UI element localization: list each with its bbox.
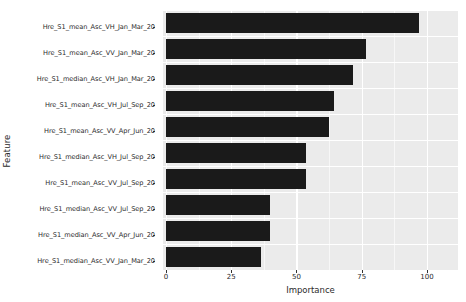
importance-bar-chart: Feature Hre_S1_mean_Asc_VH_Jan_Mar_20Hre… — [0, 0, 466, 302]
gridline-major-horizontal — [163, 244, 458, 245]
y-axis-tick-label: Hre_S1_mean_Asc_VH_Jan_Mar_20 — [43, 14, 155, 40]
y-axis-tick-mark — [153, 53, 156, 54]
gridline-major-horizontal — [163, 10, 458, 11]
y-axis-tick-label-text: Hre_S1_mean_Asc_VH_Jan_Mar_20 — [43, 23, 155, 31]
x-axis-tick-label: 75 — [357, 273, 366, 281]
gridline-major-horizontal — [163, 166, 458, 167]
gridline-major-horizontal — [163, 62, 458, 63]
y-axis-tick-mark — [153, 183, 156, 184]
y-axis-tick-label-text: Hre_S1_median_Asc_VV_Apr_Jun_20 — [38, 231, 155, 239]
x-axis-tick-label: 50 — [292, 273, 301, 281]
y-axis-tick-mark — [153, 79, 156, 80]
y-axis-tick-label: Hre_S1_mean_Asc_VV_Jul_Sep_20 — [45, 170, 155, 196]
y-axis-tick-label: Hre_S1_mean_Asc_VH_Jul_Sep_20 — [45, 92, 155, 118]
y-axis-tick-mark — [153, 131, 156, 132]
y-axis-tick-label: Hre_S1_mean_Asc_VV_Apr_Jun_20 — [44, 118, 155, 144]
y-axis-title: Feature — [0, 0, 14, 302]
gridline-major-horizontal — [163, 192, 458, 193]
y-axis-tick-label-text: Hre_S1_median_Asc_VV_Jul_Sep_20 — [39, 205, 155, 213]
y-axis-tick-label-text: Hre_S1_mean_Asc_VV_Apr_Jun_20 — [44, 127, 155, 135]
gridline-major-horizontal — [163, 36, 458, 37]
bar[interactable] — [166, 143, 306, 164]
y-axis-tick-label: Hre_S1_median_Asc_VV_Jul_Sep_20 — [39, 196, 155, 222]
y-axis-tick-label-text: Hre_S1_mean_Asc_VV_Jan_Mar_20 — [43, 49, 155, 57]
bar[interactable] — [166, 195, 270, 216]
y-axis-tick-label-text: Hre_S1_median_Asc_VV_Jan_Mar_20 — [37, 257, 155, 265]
bar[interactable] — [166, 117, 329, 138]
x-axis-tick-label: 100 — [420, 273, 433, 281]
y-axis-tick-label-text: Hre_S1_mean_Asc_VH_Jul_Sep_20 — [45, 101, 155, 109]
gridline-major-horizontal — [163, 218, 458, 219]
bar[interactable] — [166, 221, 270, 242]
y-axis-tick-label: Hre_S1_median_Asc_VV_Apr_Jun_20 — [38, 222, 155, 248]
y-axis-tick-mark — [153, 105, 156, 106]
y-axis-tick-mark — [153, 27, 156, 28]
y-axis-tick-labels: Hre_S1_mean_Asc_VH_Jan_Mar_20Hre_S1_mean… — [14, 14, 159, 270]
y-axis-tick-label: Hre_S1_median_Asc_VH_Jan_Mar_20 — [37, 66, 155, 92]
y-axis-tick-label-text: Hre_S1_median_Asc_VH_Jan_Mar_20 — [37, 75, 155, 83]
x-axis-tick-label: 0 — [164, 273, 168, 281]
gridline-major-horizontal — [163, 88, 458, 89]
bar[interactable] — [166, 91, 334, 112]
plot-panel — [163, 10, 458, 270]
y-axis-title-text: Feature — [2, 135, 12, 168]
bar[interactable] — [166, 169, 306, 190]
x-axis-tick-label: 25 — [227, 273, 236, 281]
bar[interactable] — [166, 13, 419, 34]
gridline-major-horizontal — [163, 114, 458, 115]
x-axis-title: Importance — [163, 285, 458, 295]
bar[interactable] — [166, 39, 366, 60]
y-axis-tick-label: Hre_S1_median_Asc_VH_Jul_Sep_20 — [39, 144, 155, 170]
y-axis-tick-label: Hre_S1_median_Asc_VV_Jan_Mar_20 — [37, 248, 155, 274]
y-axis-tick-mark — [153, 261, 156, 262]
x-axis: 0255075100 — [163, 270, 458, 284]
y-axis-tick-label-text: Hre_S1_mean_Asc_VV_Jul_Sep_20 — [45, 179, 155, 187]
y-axis-tick-mark — [153, 235, 156, 236]
bar[interactable] — [166, 65, 353, 86]
y-axis-tick-mark — [153, 209, 156, 210]
y-axis-tick-label: Hre_S1_mean_Asc_VV_Jan_Mar_20 — [43, 40, 155, 66]
gridline-major-horizontal — [163, 140, 458, 141]
y-axis-tick-label-text: Hre_S1_median_Asc_VH_Jul_Sep_20 — [39, 153, 155, 161]
bar[interactable] — [166, 247, 261, 268]
y-axis-tick-mark — [153, 157, 156, 158]
